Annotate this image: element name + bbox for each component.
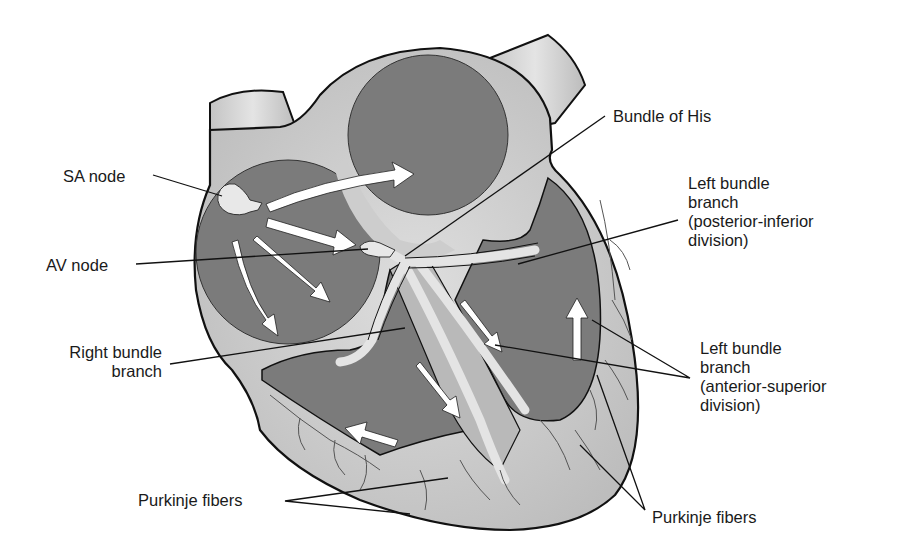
heart-conduction-diagram: SA node AV node Bundle of His Left bundl… <box>0 0 901 559</box>
label-line: (posterior-inferior <box>688 212 814 231</box>
label-sa-node: SA node <box>63 167 125 186</box>
label-left-bundle-anterior: Left bundle branch (anterior-superior di… <box>700 339 827 415</box>
label-line: Left bundle <box>700 339 827 358</box>
heart-illustration <box>0 0 901 559</box>
left-atrium <box>348 55 508 215</box>
label-bundle-of-his: Bundle of His <box>613 107 711 126</box>
label-line: division) <box>700 396 827 415</box>
label-line: branch <box>700 358 827 377</box>
label-line: branch <box>688 193 814 212</box>
label-line: division) <box>688 231 814 250</box>
label-left-bundle-posterior: Left bundle branch (posterior-inferior d… <box>688 174 814 250</box>
label-line: branch <box>36 362 162 381</box>
label-av-node: AV node <box>46 256 108 275</box>
label-purkinje-right: Purkinje fibers <box>652 508 757 527</box>
label-line: (anterior-superior <box>700 377 827 396</box>
label-right-bundle: Right bundle branch <box>36 343 162 381</box>
label-purkinje-left: Purkinje fibers <box>138 491 243 510</box>
label-line: Right bundle <box>36 343 162 362</box>
label-line: Left bundle <box>688 174 814 193</box>
